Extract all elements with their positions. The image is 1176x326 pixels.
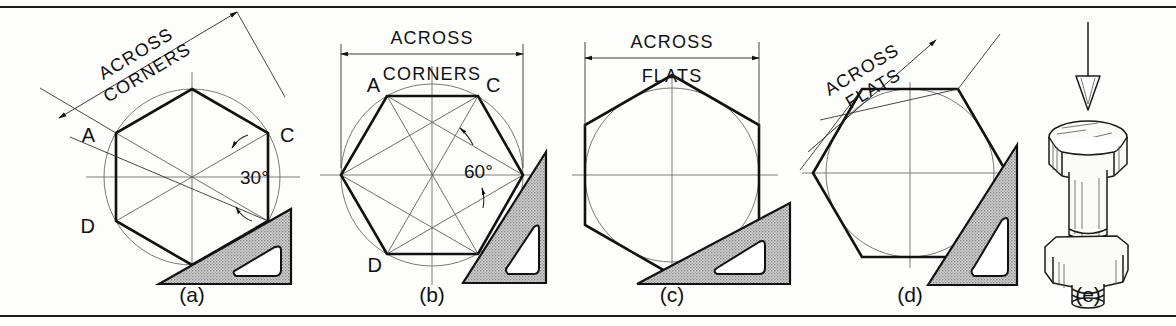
caption-d: (d): [897, 283, 923, 306]
panel-e: [1045, 22, 1128, 308]
panel-d: ACROSS FLATS: [800, 34, 1017, 285]
panel-b-across-label: ACROSS: [390, 28, 473, 48]
panel-b-diagonal-right-A: [387, 96, 523, 175]
panel-a-dimension-text-group: ACROSS CORNERS: [88, 20, 194, 107]
panel-b-diagonal-left-B: [341, 175, 478, 254]
panel-c: ACROSS FLATS: [572, 32, 790, 284]
panel-b-diagonal-left-C: [341, 96, 478, 175]
panel-d-dimension-text-group: ACROSS FLATS: [821, 40, 914, 119]
caption-a: (a): [179, 283, 205, 306]
panel-b-angle-label: 60°: [464, 161, 493, 182]
panel-c-across-label: ACROSS: [630, 32, 713, 52]
panel-a-vertex-label-A: A: [82, 124, 96, 146]
panel-d-extension-line-upper: [958, 34, 1000, 89]
panel-b: ACROSS CORNERS 60° A C D B: [320, 28, 546, 285]
figure-container: ACROSS CORNERS 30° A C D B: [0, 0, 1176, 326]
panel-a-angle-label: 30°: [240, 167, 269, 188]
panel-b-corners-label: CORNERS: [383, 64, 481, 84]
caption-e: (e): [1075, 283, 1101, 306]
panel-a: ACROSS CORNERS 30° A C D B: [40, 12, 300, 284]
panel-e-bolt-head-chamfer: [1049, 137, 1127, 155]
panel-a-extension-line-top: [237, 12, 285, 97]
panel-a-vertex-label-D: D: [81, 215, 95, 237]
caption-b: (b): [419, 283, 445, 306]
panel-b-vertex-label-A: A: [367, 74, 381, 96]
panel-b-vertex-label-C: C: [486, 74, 500, 96]
caption-c: (c): [660, 283, 685, 306]
panel-a-angle-leader-lower: [236, 207, 252, 221]
panel-b-vertex-label-D: D: [368, 254, 382, 276]
panel-a-vertex-label-C: C: [280, 124, 294, 146]
panel-c-set-square: [637, 203, 790, 284]
technical-drawing-svg: ACROSS CORNERS 30° A C D B: [0, 0, 1176, 326]
panel-e-arrow-head-icon: [1076, 76, 1100, 110]
panel-c-flats-label: FLATS: [642, 66, 703, 86]
panel-a-extension-line-lower: [70, 137, 268, 221]
